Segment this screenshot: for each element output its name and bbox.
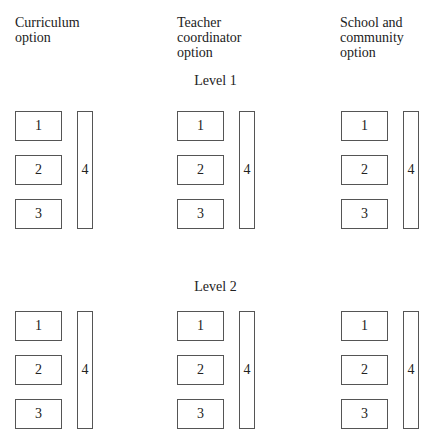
box-4: 4 <box>403 111 419 229</box>
box-4: 4 <box>403 311 419 429</box>
box-1: 1 <box>177 311 224 341</box>
box-1: 1 <box>177 111 224 141</box>
box-1: 1 <box>341 311 388 341</box>
box-4: 4 <box>77 111 93 229</box>
column-header-teacher-coordinator: Teacher coordinator option <box>177 15 242 60</box>
box-3: 3 <box>177 199 224 229</box>
column-header-school-community: School and community option <box>340 15 404 60</box>
box-3: 3 <box>341 199 388 229</box>
box-2: 2 <box>177 355 224 385</box>
box-4: 4 <box>77 311 93 429</box>
box-3: 3 <box>341 399 388 429</box>
box-1: 1 <box>341 111 388 141</box>
box-2: 2 <box>15 355 62 385</box>
box-4: 4 <box>239 111 255 229</box>
column-header-curriculum: Curriculum option <box>15 15 80 45</box>
box-2: 2 <box>341 155 388 185</box>
box-2: 2 <box>15 155 62 185</box>
box-1: 1 <box>15 311 62 341</box>
box-4: 4 <box>239 311 255 429</box>
box-3: 3 <box>15 199 62 229</box>
box-3: 3 <box>15 399 62 429</box>
box-2: 2 <box>341 355 388 385</box>
level-2-label: Level 2 <box>0 279 431 295</box>
box-3: 3 <box>177 399 224 429</box>
box-2: 2 <box>177 155 224 185</box>
level-1-label: Level 1 <box>0 73 431 89</box>
box-1: 1 <box>15 111 62 141</box>
